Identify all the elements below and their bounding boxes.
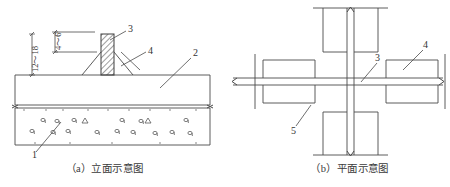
hatched-column-member: [101, 34, 114, 75]
panel-elevation-view: 12～18 4～6 3 4 2 1 （a）立面示意图: [0, 0, 225, 187]
top-flange: [313, 8, 388, 52]
upper-slab-outline: [15, 75, 210, 105]
bottom-flange: [313, 112, 388, 155]
callout-2-label: 2: [193, 48, 198, 58]
callout-4-label: 4: [148, 46, 153, 56]
right-flange: [386, 54, 445, 109]
concrete-aggregate-symbols: [23, 109, 196, 143]
callout-3-label: 3: [128, 24, 133, 34]
callout-4-label: 4: [423, 40, 428, 50]
axis-end-markers: [232, 7, 444, 156]
callout-3-label: 3: [375, 53, 380, 63]
horizontal-spine: [233, 78, 443, 85]
concrete-base-outline: [15, 108, 210, 145]
panel-plan-view: 3 4 5 （b）平面示意图: [225, 0, 450, 187]
callout-1-label: 1: [32, 150, 37, 160]
callout-5-label: 5: [291, 126, 296, 136]
dimension-thickness-label: 12～18: [28, 46, 40, 72]
technical-figure: 12～18 4～6 3 4 2 1 （a）立面示意图: [0, 0, 450, 187]
plan-drawing: [225, 0, 450, 187]
left-flange: [255, 54, 315, 109]
caption-elevation: （a）立面示意图: [0, 160, 217, 175]
vertical-spine: [347, 8, 354, 155]
caption-plan: （b）平面示意图: [237, 160, 450, 175]
dimension-gap-label: 4～6: [51, 33, 63, 51]
